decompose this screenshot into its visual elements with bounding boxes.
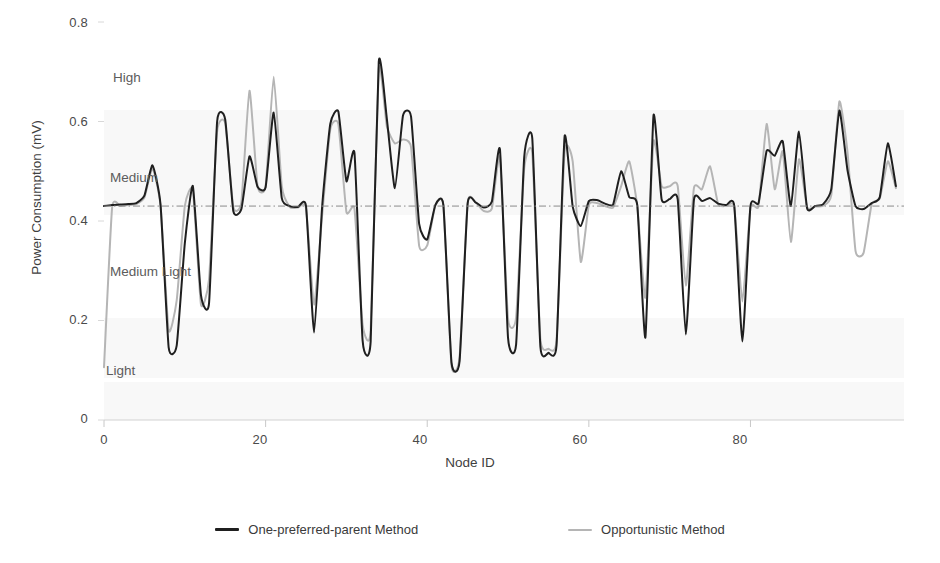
legend-item-one-preferred-parent[interactable]: One-preferred-parent Method bbox=[215, 522, 418, 537]
annotation-medium: Medium bbox=[110, 170, 158, 185]
annotation-light: Light bbox=[106, 363, 135, 378]
chart-legend: One-preferred-parent Method Opportunisti… bbox=[0, 522, 940, 537]
chart-figure: Power Consumption (mV) 0.8 0.6 0.4 0.2 0… bbox=[0, 0, 940, 563]
legend-swatch-gray bbox=[568, 529, 592, 531]
legend-label-one-preferred-parent: One-preferred-parent Method bbox=[248, 522, 418, 537]
series-line-one-preferred-parent bbox=[104, 58, 896, 371]
legend-label-opportunistic: Opportunistic Method bbox=[601, 522, 725, 537]
annotation-medium-light: Medium Light bbox=[110, 264, 191, 279]
legend-item-opportunistic[interactable]: Opportunistic Method bbox=[568, 522, 725, 537]
legend-swatch-dark bbox=[215, 528, 239, 531]
annotation-high: High bbox=[113, 70, 141, 85]
plot-area bbox=[0, 0, 940, 563]
